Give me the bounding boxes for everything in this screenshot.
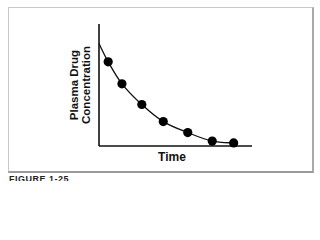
data-points — [104, 57, 239, 147]
data-point-marker — [159, 117, 168, 126]
data-point-marker — [137, 100, 146, 109]
y-axis-label-line-1: Plasma Drug — [68, 46, 80, 124]
data-point-marker — [229, 138, 238, 147]
data-point-marker — [183, 128, 192, 137]
concentration-curve — [99, 44, 234, 143]
y-axis-label-line-2: Concentration — [80, 46, 92, 124]
data-point-marker — [104, 57, 113, 66]
data-point-marker — [117, 79, 126, 88]
data-point-marker — [208, 137, 217, 146]
y-axis-label: Plasma Drug Concentration — [68, 46, 92, 124]
x-axis-label: Time — [158, 150, 186, 164]
figure-caption: FIGURE 1-25 — [9, 174, 69, 181]
